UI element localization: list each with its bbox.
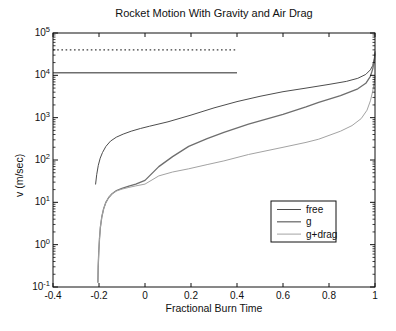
x-tick-label: 0.6 <box>276 290 290 301</box>
matlab-figure: Rocket Motion With Gravity and Air Drag … <box>0 0 396 331</box>
x-tick-label: 0.2 <box>184 290 198 301</box>
y-tick-label: 104 <box>35 67 50 80</box>
y-tick-label: 100 <box>35 237 50 250</box>
x-tick-label: 0.8 <box>322 290 336 301</box>
y-tick-label: 105 <box>35 25 50 38</box>
x-tick-label: -0.4 <box>44 290 62 301</box>
plot-canvas: -0.4-0.200.20.40.60.8110-110010110210310… <box>0 0 396 331</box>
legend-label-g: g <box>306 216 312 227</box>
curve-g <box>98 54 375 282</box>
plot-box <box>53 33 375 287</box>
x-tick-label: 0 <box>142 290 148 301</box>
y-tick-label: 101 <box>35 194 50 207</box>
x-tick-label: 1 <box>372 290 378 301</box>
y-tick-label: 103 <box>35 110 50 123</box>
legend-label-free: free <box>306 204 324 215</box>
x-tick-label: 0.4 <box>230 290 244 301</box>
legend-label-gdrag: g+drag <box>306 229 337 240</box>
curve-g-drag <box>98 76 375 282</box>
y-tick-label: 102 <box>35 152 50 165</box>
curve-free <box>96 52 375 184</box>
x-tick-label: -0.2 <box>90 290 108 301</box>
